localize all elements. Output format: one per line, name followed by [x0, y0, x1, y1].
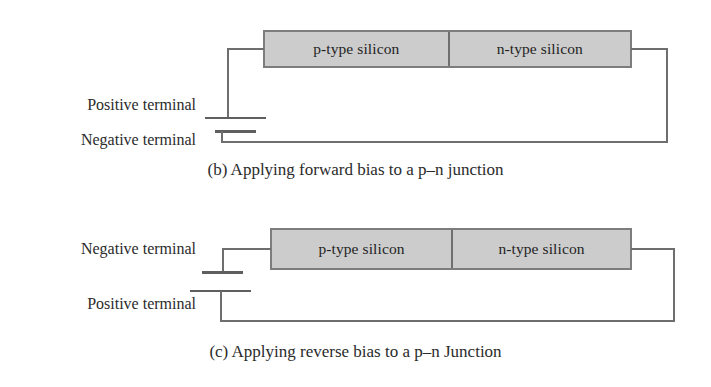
caption-reverse-bias: (c) Applying reverse bias to a p–n Junct…: [0, 342, 711, 362]
wire-bottom-horizontal: [221, 141, 668, 143]
p-type-region: p-type silicon: [265, 32, 448, 66]
negative-terminal-label: Negative terminal: [0, 240, 196, 258]
forward-bias-panel: p-type silicon n-type silicon Positive t…: [0, 0, 711, 195]
p-type-region: p-type silicon: [272, 230, 451, 268]
n-type-region: n-type silicon: [448, 32, 631, 66]
positive-terminal-label: Positive terminal: [0, 96, 196, 114]
wire-battery-return-vertical: [220, 291, 222, 322]
wire-bottom-horizontal: [220, 320, 675, 322]
wire-right-horizontal: [631, 248, 675, 250]
battery-negative-plate: [202, 271, 243, 274]
wire-left-horizontal: [227, 48, 264, 50]
wire-left-horizontal: [222, 248, 271, 250]
caption-forward-bias: (b) Applying forward bias to a p–n junct…: [0, 160, 711, 180]
battery-positive-plate: [205, 117, 266, 119]
reverse-bias-panel: p-type silicon n-type silicon Negative t…: [0, 195, 711, 387]
wire-left-vertical: [222, 248, 224, 272]
wire-right-vertical: [666, 48, 668, 143]
wire-left-vertical: [227, 48, 229, 118]
pn-junction-bias-figure: p-type silicon n-type silicon Positive t…: [0, 0, 711, 387]
wire-right-vertical: [673, 248, 675, 322]
silicon-bar-forward: p-type silicon n-type silicon: [263, 30, 632, 68]
positive-terminal-label: Positive terminal: [0, 295, 196, 313]
n-type-region: n-type silicon: [451, 230, 630, 268]
silicon-bar-reverse: p-type silicon n-type silicon: [270, 228, 632, 270]
negative-terminal-label: Negative terminal: [0, 131, 196, 149]
wire-right-horizontal: [631, 48, 668, 50]
